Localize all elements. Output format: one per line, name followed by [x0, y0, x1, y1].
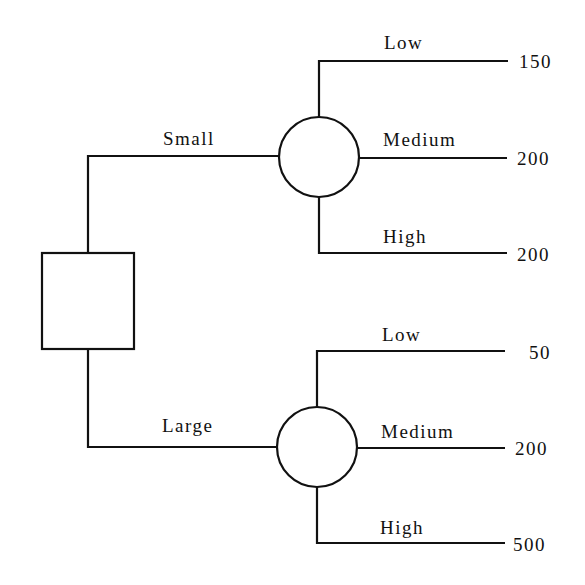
branch-small-label: Small — [163, 128, 215, 149]
outcome-label-small-high: High — [383, 226, 427, 247]
outcome-value-large-high: 500 — [513, 534, 546, 555]
outcome-label-large-high: High — [380, 517, 424, 538]
outcome-label-large-low: Low — [382, 324, 421, 345]
outcome-value-large-low: 50 — [529, 342, 551, 363]
branch-large-label: Large — [162, 415, 213, 436]
branch-small-line — [88, 156, 279, 253]
outcome-label-small-medium: Medium — [383, 129, 456, 150]
outcome-label-small-low: Low — [384, 32, 423, 53]
branch-small: Small Low 150 Medium 200 High 200 — [88, 32, 552, 265]
chance-node-small — [279, 117, 359, 197]
decision-tree-diagram: Small Low 150 Medium 200 High 200 Large … — [0, 0, 585, 585]
outcome-line-large-low — [317, 351, 505, 407]
chance-node-large — [277, 407, 357, 487]
outcome-line-small-low — [319, 61, 508, 117]
branch-large: Large Low 50 Medium 200 High 500 — [88, 324, 551, 555]
decision-node — [42, 253, 134, 349]
outcome-value-large-medium: 200 — [515, 438, 548, 459]
outcome-label-large-medium: Medium — [381, 421, 454, 442]
outcome-value-small-medium: 200 — [517, 148, 550, 169]
outcome-value-small-high: 200 — [517, 244, 550, 265]
outcome-value-small-low: 150 — [519, 51, 552, 72]
